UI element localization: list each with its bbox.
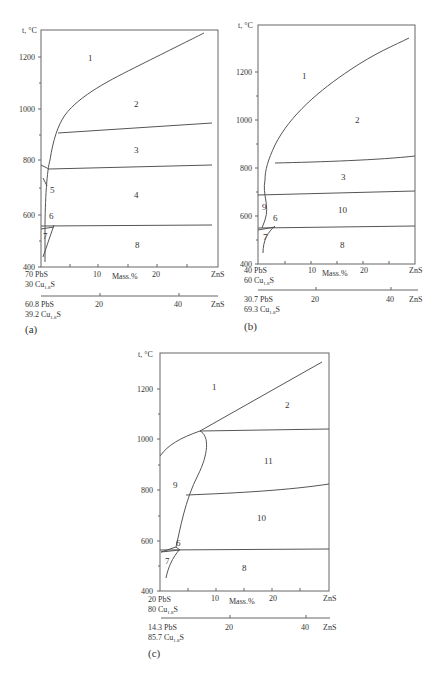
y-ticks-a (38, 57, 187, 267)
region-label: 6 (273, 213, 278, 223)
region-label: 6 (49, 211, 54, 221)
isotherm-555-b (258, 226, 415, 228)
isotherm-780-c (186, 484, 329, 495)
x-axis-label: Mass.% (112, 272, 138, 281)
region-label: 1 (302, 71, 307, 81)
y-tick-label: 1200 (236, 68, 252, 77)
isotherm-1035-c (200, 429, 329, 431)
isotherm-900-a (58, 123, 212, 133)
panel-c: t, °C 1200 1000 800 600 400 1 2 11 9 10 … (137, 350, 336, 660)
liquidus-curve-a (45, 33, 204, 262)
region-label: 2 (285, 400, 290, 410)
x-axis-left-label-cu: 30 Cu1.8S (25, 280, 55, 290)
x-axis2-left-label-pbs: 60.8 PbS (25, 300, 54, 309)
region-label: 8 (340, 240, 345, 250)
region-label: 2 (134, 99, 139, 109)
x-axis-right-label: ZnS (409, 266, 422, 275)
isotherm-690-b (258, 191, 415, 195)
region-label: 3 (134, 145, 139, 155)
x-tick-label: 20 (360, 266, 368, 275)
region-label: 7 (263, 232, 268, 242)
region-label: 8 (242, 563, 247, 573)
region-label: 2 (355, 115, 360, 125)
y-tick-label: 600 (240, 212, 252, 221)
region-label: 10 (338, 205, 348, 215)
x-axis2-right-label: ZnS (323, 623, 336, 632)
region-label: 1 (88, 53, 93, 63)
x-tick-label: 20 (311, 295, 319, 304)
x-axis-left-label-pbs: 20 PbS (148, 595, 171, 604)
y-tick-label: 1000 (137, 435, 153, 444)
x-axis-label: Mass.% (229, 597, 255, 606)
x-axis-right-label: ZnS (323, 594, 336, 603)
y-tick-label: 1000 (19, 105, 35, 114)
region-label: 7 (43, 231, 48, 241)
x-axis2-left-label-pbs: 30.7 PbS (244, 295, 273, 304)
x-axis-right-label: ZnS (211, 270, 224, 279)
x-tick-label: 40 (301, 623, 309, 632)
x-tick-label: 40 (386, 295, 394, 304)
region-label: 4 (134, 190, 139, 200)
x-axis2-left-label-pbs: 14.3 PbS (148, 623, 177, 632)
region-label: 5 (50, 185, 55, 195)
region-label: 10 (257, 513, 267, 523)
x-tick-label: 10 (93, 270, 101, 279)
x-axis2-left-label-cu: 39.2 Cu1.8S (25, 310, 61, 320)
y-tick-label: 1000 (236, 116, 252, 125)
x-tick-label: 20 (269, 594, 277, 603)
x-axis2-right-label: ZnS (211, 300, 224, 309)
y-tick-label: 600 (141, 537, 153, 546)
y-tick-label: 600 (23, 211, 35, 220)
x-tick-label: 20 (95, 300, 103, 309)
y-tick-label: 1200 (137, 385, 153, 394)
x-axis-label: Mass.% (322, 269, 348, 278)
y-tick-label: 800 (141, 486, 153, 495)
isotherm-555-a (41, 227, 54, 229)
plot-frame-c (160, 353, 329, 591)
region-label: 7 (165, 556, 170, 566)
y-tick-label: 800 (240, 164, 252, 173)
isotherm-780-a (41, 165, 212, 169)
x-axis-left-label-pbs: 70 PbS (25, 270, 48, 279)
panel-a: t, °C 1200 1000 800 600 400 1 2 3 4 5 6 … (19, 26, 224, 336)
region-label: 9 (173, 480, 178, 490)
y-tick-label: 1200 (19, 53, 35, 62)
x-tick-label: 40 (174, 300, 182, 309)
x-axis2-right-label: ZnS (409, 295, 422, 304)
x-axis-left-label-cu: 80 Cu1.8S (148, 605, 178, 615)
region-label: 8 (135, 240, 140, 250)
region-label: 1 (212, 382, 217, 392)
panel-b: t, °C 1200 1000 800 600 400 1 2 3 9 10 6… (236, 21, 422, 333)
liquidus-upper-c (200, 362, 322, 431)
y-axis-label-b: t, °C (238, 21, 253, 30)
x-tick-label: 20 (225, 623, 233, 632)
x-axis2-left-label-cu: 69.3 Cu1.8S (244, 305, 280, 315)
y-tick-label: 800 (23, 156, 35, 165)
x-axis2-left-label-cu: 85.7 Cu1.8S (148, 633, 184, 643)
x-tick-label: 20 (152, 270, 160, 279)
region-label: 9 (262, 202, 267, 212)
solvus-9-c (176, 431, 207, 547)
x-tick-label: 10 (308, 266, 316, 275)
panel-label-b: (b) (244, 320, 257, 333)
y-axis-label-c: t, °C (138, 350, 153, 359)
isotherm-560-c (160, 549, 329, 550)
region-label: 3 (341, 172, 346, 182)
isotherm-820-b (275, 156, 415, 163)
region-label: 6 (176, 538, 181, 548)
liquidus-left-c (160, 431, 200, 456)
x-tick-label: 10 (211, 594, 219, 603)
isotherm-560-a (41, 225, 212, 226)
x-axis-left-label-pbs: 40 PbS (244, 266, 267, 275)
phase-diagram-figure: t, °C 1200 1000 800 600 400 1 2 3 4 5 6 … (0, 0, 442, 680)
plot-frame-a (41, 30, 218, 267)
y-axis-label-a: t, °C (22, 26, 37, 35)
x-axis-left-label-cu: 60 Cu1.8S (244, 276, 274, 286)
panel-label-a: (a) (25, 323, 38, 336)
panel-label-c: (c) (148, 647, 161, 660)
y-ticks-b (255, 72, 389, 264)
region-label: 11 (264, 456, 273, 466)
